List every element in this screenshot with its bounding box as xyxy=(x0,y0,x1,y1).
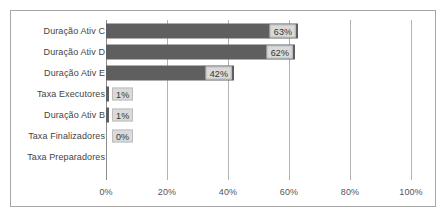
chart-frame: 0%20%40%60%80%100%Duração Ativ C63%Duraç… xyxy=(10,10,436,207)
bar[interactable] xyxy=(106,107,109,122)
category-axis-label: Duração Ativ C xyxy=(44,26,105,36)
chart-row: Duração Ativ D62% xyxy=(11,41,437,62)
category-axis-label: Duração Ativ D xyxy=(44,47,105,57)
bar-value-label: 1% xyxy=(112,87,133,100)
chart-row: Duração Ativ C63% xyxy=(11,20,437,41)
chart-row: Duração Ativ B1% xyxy=(11,104,437,125)
x-axis-tick-label: 0% xyxy=(99,187,112,197)
bar-value-label: 0% xyxy=(112,129,133,142)
category-axis-label: Duração Ativ E xyxy=(44,68,105,78)
category-axis-label: Taxa Preparadores xyxy=(27,152,105,162)
bar-value-label: 62% xyxy=(267,45,293,58)
x-axis-tick-label: 80% xyxy=(341,187,359,197)
x-axis-tick-label: 40% xyxy=(219,187,237,197)
x-axis-tick-label: 60% xyxy=(280,187,298,197)
bar-value-label: 1% xyxy=(112,108,133,121)
x-axis-tick-label: 100% xyxy=(399,187,422,197)
category-axis-label: Duração Ativ B xyxy=(44,110,105,120)
bar-value-label: 63% xyxy=(270,24,296,37)
bar[interactable] xyxy=(106,86,109,101)
chart-row: Taxa Preparadores xyxy=(11,146,437,167)
bar-chart-plot-area: 0%20%40%60%80%100%Duração Ativ C63%Duraç… xyxy=(11,11,437,208)
chart-row: Taxa Executores1% xyxy=(11,83,437,104)
bar-value-label: 42% xyxy=(206,66,232,79)
category-axis-label: Taxa Finalizadores xyxy=(28,131,105,141)
x-axis-tick-label: 20% xyxy=(158,187,176,197)
category-axis-label: Taxa Executores xyxy=(37,89,105,99)
chart-row: Taxa Finalizadores0% xyxy=(11,125,437,146)
chart-row: Duração Ativ E42% xyxy=(11,62,437,83)
